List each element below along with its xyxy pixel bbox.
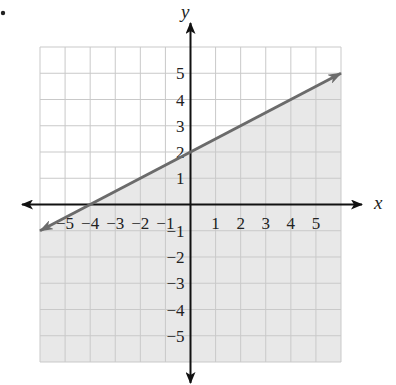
x-tick-label: 3 [262, 214, 271, 233]
y-tick-label: −1 [166, 222, 184, 241]
y-tick-label: 4 [176, 91, 185, 110]
x-tick-label: −2 [131, 214, 149, 233]
x-tick-label: −4 [81, 214, 100, 233]
x-tick-label: 1 [211, 214, 220, 233]
y-tick-label: 3 [176, 117, 185, 136]
x-tick-label: 2 [236, 214, 245, 233]
y-tick-label: −2 [166, 248, 184, 267]
x-tick-label: 4 [287, 214, 296, 233]
x-axis-label: x [373, 192, 383, 213]
x-tick-label: 5 [312, 214, 321, 233]
y-tick-label: 1 [176, 169, 185, 188]
coordinate-plane: −5−4−3−2−11234554321−1−2−3−4−5 x y [0, 0, 396, 385]
y-tick-label: −3 [166, 274, 184, 293]
y-axis-label: y [179, 1, 190, 22]
y-tick-label: −5 [166, 327, 184, 346]
bullet-dot [1, 11, 5, 15]
y-tick-label: 5 [176, 64, 185, 83]
x-tick-label: −3 [106, 214, 124, 233]
y-tick-label: −4 [166, 301, 185, 320]
